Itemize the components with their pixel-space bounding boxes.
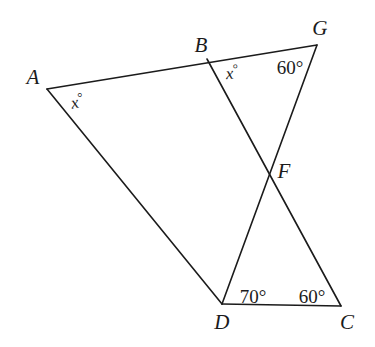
segments-group [47, 45, 341, 306]
angle-label-C: 60° [299, 287, 326, 306]
vertex-label-A: A [26, 67, 39, 88]
vertex-label-F: F [277, 161, 290, 182]
segment-A-D [47, 89, 222, 304]
segment-B-C [207, 59, 341, 306]
segment-G-D [222, 45, 317, 304]
angle-label-D-interior: 70° [240, 287, 267, 306]
vertex-label-G: G [312, 18, 327, 39]
vertex-label-D: D [214, 312, 229, 333]
angle-label-B: x° [225, 62, 239, 82]
vertex-label-B: B [194, 35, 207, 56]
geometry-figure: A B G F D C x° x° 60° 70° 60° [0, 0, 375, 347]
angle-label-G: 60° [277, 58, 304, 77]
vertex-label-C: C [340, 312, 354, 333]
